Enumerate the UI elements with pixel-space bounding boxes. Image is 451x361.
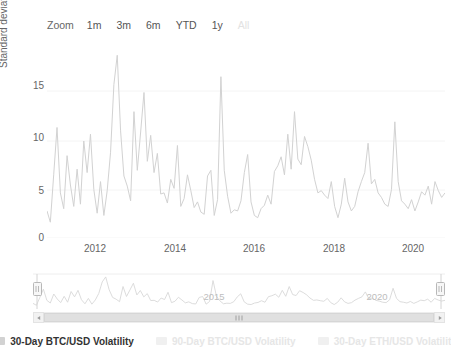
legend-item-eth-30d[interactable]: 30-Day ETH/USD Volatility [318, 336, 451, 347]
x-tick-2014: 2014 [145, 243, 205, 254]
navigator-x-tick-2015: 2015 [189, 291, 239, 302]
chevron-left-icon [37, 316, 40, 320]
series-line-btc-30d [47, 55, 445, 222]
main-series-svg [47, 44, 445, 238]
navigator[interactable]: 2015 2020 [33, 271, 445, 312]
legend-label: 90-Day BTC/USD Volatility [172, 336, 296, 347]
range-button-1y[interactable]: 1y [212, 19, 223, 31]
range-button-ytd[interactable]: YTD [176, 19, 197, 31]
scrollbar-left-arrow-button[interactable] [33, 312, 44, 323]
range-selector-label: Zoom [47, 19, 74, 31]
x-tick-2012: 2012 [65, 243, 125, 254]
legend-swatch-icon [318, 337, 329, 345]
legend: 30-Day BTC/USD Volatility 90-Day BTC/USD… [0, 333, 451, 349]
volatility-chart: Zoom 1m 3m 6m YTD 1y All Standard deviat… [0, 0, 451, 361]
range-button-1m[interactable]: 1m [87, 19, 102, 31]
plot-area[interactable] [47, 44, 445, 238]
y-tick-0: 0 [4, 232, 44, 243]
range-selector: Zoom 1m 3m 6m YTD 1y All [47, 16, 264, 34]
range-button-all[interactable]: All [238, 19, 250, 31]
chevron-right-icon [438, 316, 441, 320]
y-tick-5: 5 [4, 185, 44, 196]
navigator-x-tick-2020: 2020 [352, 291, 402, 302]
y-tick-15: 15 [4, 80, 44, 91]
navigator-left-handle[interactable] [34, 283, 42, 296]
legend-item-btc-30d[interactable]: 30-Day BTC/USD Volatility [0, 336, 134, 347]
x-axis-ticks: 2012 2014 2016 2018 2020 [47, 243, 445, 257]
range-button-3m[interactable]: 3m [116, 19, 131, 31]
y-tick-10: 10 [4, 132, 44, 143]
x-tick-2020: 2020 [383, 243, 443, 254]
scrollbar-right-arrow-button[interactable] [434, 312, 445, 323]
scrollbar-thumb[interactable] [44, 313, 434, 322]
x-tick-2016: 2016 [224, 243, 284, 254]
legend-swatch-icon [156, 337, 167, 345]
legend-label: 30-Day ETH/USD Volatility [334, 336, 451, 347]
scrollbar-track[interactable] [44, 312, 434, 323]
x-tick-2018: 2018 [304, 243, 364, 254]
range-button-6m[interactable]: 6m [146, 19, 161, 31]
legend-swatch-icon [0, 337, 5, 345]
navigator-right-handle[interactable] [437, 283, 445, 296]
navigator-scrollbar[interactable] [33, 312, 445, 323]
scrollbar-grip-icon [236, 315, 243, 320]
legend-label: 30-Day BTC/USD Volatility [10, 336, 134, 347]
legend-item-btc-90d[interactable]: 90-Day BTC/USD Volatility [156, 336, 296, 347]
